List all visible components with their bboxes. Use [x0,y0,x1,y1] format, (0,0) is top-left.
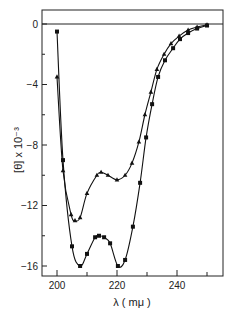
y-axis-label: [θ] x 10⁻³ [12,127,24,173]
x-axis: 200220240 [49,270,207,291]
y-tick-label: −8 [27,140,39,151]
square-marker [138,181,142,185]
triangle-marker [61,168,66,172]
y-axis: 0−4−8−12−16 [21,19,47,272]
triangle-marker [78,215,83,219]
triangle-marker [130,161,135,165]
square-marker [97,234,101,238]
square-marker [144,135,148,139]
triangle-marker [149,89,154,93]
triangle-marker [99,170,104,174]
triangle-marker [143,112,148,116]
triangle-marker [155,67,160,71]
square-marker [171,46,175,50]
square-marker [131,225,135,229]
triangle-marker [69,212,74,216]
y-tick-label: −4 [27,79,39,90]
series-triangles [55,22,210,222]
triangle-marker [177,34,182,38]
square-marker [70,244,74,248]
square-marker [85,252,89,256]
square-marker [116,264,120,268]
plot-frame [42,10,223,276]
square-marker [178,37,182,41]
y-tick-label: −12 [21,200,38,211]
data-series [55,22,210,268]
x-axis-label: λ ( mμ ) [113,296,151,308]
square-marker [163,58,167,62]
square-marker [156,75,160,79]
square-marker [78,264,82,268]
square-marker [108,241,112,245]
cd-spectrum-chart: 0−4−8−12−16 200220240 [θ] x 10⁻³ λ ( mμ … [0,0,235,322]
x-tick-label: 240 [169,280,186,291]
x-tick-label: 220 [109,280,126,291]
y-tick-label: 0 [32,19,38,30]
x-tick-label: 200 [49,280,66,291]
square-marker [186,31,190,35]
square-marker [55,30,59,34]
triangle-marker [85,191,90,195]
triangle-marker [137,139,142,143]
series-squares [55,24,209,268]
square-marker [102,235,106,239]
square-marker [93,235,97,239]
y-tick-label: −16 [21,261,38,272]
square-marker [150,102,154,106]
square-marker [123,258,127,262]
